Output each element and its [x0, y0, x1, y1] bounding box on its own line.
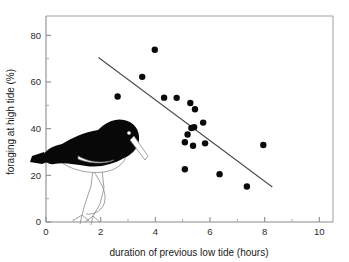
- data-point: [173, 95, 179, 101]
- x-axis-title: duration of previous low tide (hours): [110, 247, 269, 258]
- bird-leg-front: [93, 170, 104, 216]
- data-point: [202, 140, 208, 146]
- data-point: [139, 74, 145, 80]
- y-tick-label: 20: [30, 170, 41, 181]
- data-point: [192, 106, 198, 112]
- bird-foot-front: [85, 216, 100, 225]
- data-point-group: [114, 47, 266, 190]
- data-point: [190, 143, 196, 149]
- y-axis-tick-labels: 020406080: [30, 30, 41, 228]
- x-tick-label: 0: [43, 226, 48, 237]
- data-point: [260, 142, 266, 148]
- x-axis-tick-labels: 0246810: [43, 226, 324, 237]
- data-point: [152, 47, 158, 53]
- y-tick-label: 0: [36, 216, 41, 227]
- y-tick-label: 80: [30, 30, 41, 41]
- y-tick-label: 60: [30, 76, 41, 87]
- x-tick-label: 10: [314, 226, 325, 237]
- data-point: [114, 93, 120, 99]
- scatter-plot: 0246810 020406080 dura: [0, 0, 349, 262]
- data-point: [191, 124, 197, 130]
- data-point: [182, 139, 188, 145]
- y-tick-label: 40: [30, 123, 41, 134]
- oystercatcher-illustration: [30, 119, 148, 225]
- x-tick-label: 4: [153, 226, 158, 237]
- x-tick-label: 2: [98, 226, 103, 237]
- bird-foot-rear: [74, 215, 89, 224]
- data-point: [216, 171, 222, 177]
- chart-figure: 0246810 020406080 dura: [0, 0, 349, 262]
- x-tick-label: 8: [262, 226, 267, 237]
- x-tick-label: 6: [207, 226, 212, 237]
- data-point: [187, 100, 193, 106]
- y-axis-ticks: [46, 35, 51, 222]
- data-point: [182, 166, 188, 172]
- bird-eye: [127, 131, 131, 135]
- data-point: [200, 119, 206, 125]
- data-point: [161, 94, 167, 100]
- data-point: [184, 131, 190, 137]
- y-axis-title: foraging at high tide (%): [5, 69, 16, 175]
- data-point: [244, 183, 250, 189]
- bird-leg-rear: [82, 170, 93, 215]
